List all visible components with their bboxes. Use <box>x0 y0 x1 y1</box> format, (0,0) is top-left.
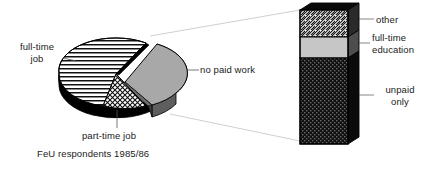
pie-label-part-time-job: part-time job <box>67 130 151 142</box>
bar-label-leaders <box>359 19 374 95</box>
connector-line-bottom <box>170 114 300 141</box>
bar-label-full-time-education: full-time education <box>372 32 438 55</box>
bar-label-unpaid-only: unpaid only <box>376 84 424 107</box>
pie-label-no-paid-work: no paid work <box>200 64 276 76</box>
bar-side-unpaid-only <box>348 51 359 144</box>
chart-canvas <box>0 0 438 171</box>
bar-segment-full-time-education[interactable] <box>300 37 348 58</box>
bar-label-other: other <box>376 14 436 26</box>
breakout-stacked-bar-3d <box>300 3 359 144</box>
bar-segment-other[interactable] <box>300 10 348 37</box>
bar-segment-unpaid-only[interactable] <box>300 58 348 144</box>
chart-figure: full-time job part-time job no paid work… <box>0 0 438 171</box>
pie-chart-3d <box>59 38 188 118</box>
connector-line-top <box>150 10 300 36</box>
chart-caption: FeU respondents 1985/86 <box>37 148 197 160</box>
pie-label-full-time-job: full-time job <box>6 41 68 64</box>
